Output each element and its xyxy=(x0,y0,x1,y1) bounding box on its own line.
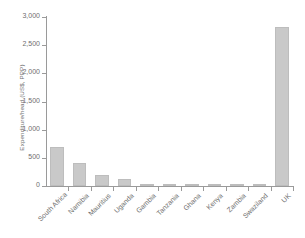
x-tick-mark xyxy=(158,187,159,191)
plot-area xyxy=(46,17,293,186)
y-tick-label: 1,000 xyxy=(0,125,40,132)
x-tick-mark xyxy=(203,187,204,191)
y-tick-label: 2,000 xyxy=(0,68,40,75)
x-axis-line xyxy=(46,186,294,187)
x-tick-mark xyxy=(136,187,137,191)
bar xyxy=(118,179,131,186)
bar xyxy=(50,147,63,186)
y-tick-label: 2,500 xyxy=(0,40,40,47)
bar xyxy=(253,184,266,186)
x-tick-mark xyxy=(91,187,92,191)
x-tick-mark xyxy=(271,187,272,191)
y-axis-title: Expenditure/head (US$, PPP) xyxy=(18,33,25,183)
x-tick-mark xyxy=(181,187,182,191)
bar xyxy=(230,184,243,186)
y-tick-label: 0 xyxy=(0,181,40,188)
bar xyxy=(275,27,288,186)
y-tick-label: 1,500 xyxy=(0,97,40,104)
bar xyxy=(95,175,108,186)
x-tick-mark xyxy=(248,187,249,191)
bar xyxy=(163,184,176,186)
bar xyxy=(140,184,153,186)
bar xyxy=(208,184,221,186)
bar xyxy=(185,184,198,186)
y-tick-label: 500 xyxy=(0,153,40,160)
bar-chart: Expenditure/head (US$, PPP) 05001,0001,5… xyxy=(0,0,305,238)
y-tick-label: 3,000 xyxy=(0,12,40,19)
x-tick-mark xyxy=(113,187,114,191)
bar xyxy=(73,163,86,186)
x-tick-mark xyxy=(226,187,227,191)
x-tick-mark xyxy=(293,187,294,191)
y-tick-mark xyxy=(42,186,46,187)
x-tick-mark xyxy=(68,187,69,191)
